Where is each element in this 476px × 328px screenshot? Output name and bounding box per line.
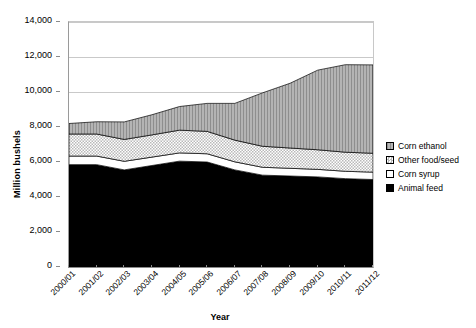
y-tick-mark bbox=[56, 231, 60, 232]
legend-swatch-icon bbox=[386, 142, 394, 150]
y-tick-label: 6,000 bbox=[29, 156, 52, 165]
legend-item[interactable]: Corn ethanol bbox=[386, 139, 474, 153]
y-axis-labels: 02,0004,0006,0008,00010,00012,00014,000 bbox=[0, 0, 64, 328]
legend-swatch-icon bbox=[386, 156, 394, 164]
stacked-area-chart: Million bushels 02,0004,0006,0008,00010,… bbox=[0, 0, 476, 328]
y-tick-label: 2,000 bbox=[29, 226, 52, 235]
legend-item[interactable]: Other food/seed bbox=[386, 153, 474, 167]
y-tick-label: 4,000 bbox=[29, 191, 52, 200]
y-tick-mark bbox=[56, 56, 60, 57]
y-tick-mark bbox=[56, 266, 60, 267]
y-tick-mark bbox=[56, 126, 60, 127]
x-tick-mark bbox=[96, 265, 97, 268]
plot-area bbox=[68, 21, 374, 268]
y-tick-label: 14,000 bbox=[24, 16, 52, 25]
y-tick-mark bbox=[56, 196, 60, 197]
legend-label: Corn syrup bbox=[398, 170, 440, 179]
x-tick-mark bbox=[68, 265, 69, 268]
y-tick-mark bbox=[56, 161, 60, 162]
x-tick-mark bbox=[179, 265, 180, 268]
y-tick-label: 8,000 bbox=[29, 121, 52, 130]
x-tick-mark bbox=[372, 265, 373, 268]
legend-label: Corn ethanol bbox=[398, 142, 447, 151]
y-tick-label: 10,000 bbox=[24, 86, 52, 95]
legend-swatch-icon bbox=[386, 184, 394, 192]
x-axis-title: Year bbox=[68, 312, 372, 322]
x-tick-mark bbox=[317, 265, 318, 268]
y-tick-mark bbox=[56, 91, 60, 92]
x-axis-labels: 2000/012001/022002/032003/042004/052005/… bbox=[68, 268, 372, 312]
legend-swatch-icon bbox=[386, 170, 394, 178]
legend-item[interactable]: Animal feed bbox=[386, 181, 474, 195]
series-layers bbox=[69, 22, 373, 267]
y-tick-label: 0 bbox=[47, 261, 52, 270]
chart-legend: Corn ethanolOther food/seedCorn syrupAni… bbox=[386, 139, 474, 195]
y-tick-mark bbox=[56, 21, 60, 22]
y-tick-label: 12,000 bbox=[24, 51, 52, 60]
x-tick-mark bbox=[234, 265, 235, 268]
x-tick-mark bbox=[206, 265, 207, 268]
x-tick-mark bbox=[151, 265, 152, 268]
legend-item[interactable]: Corn syrup bbox=[386, 167, 474, 181]
legend-label: Animal feed bbox=[398, 184, 443, 193]
x-tick-mark bbox=[289, 265, 290, 268]
legend-label: Other food/seed bbox=[398, 156, 459, 165]
